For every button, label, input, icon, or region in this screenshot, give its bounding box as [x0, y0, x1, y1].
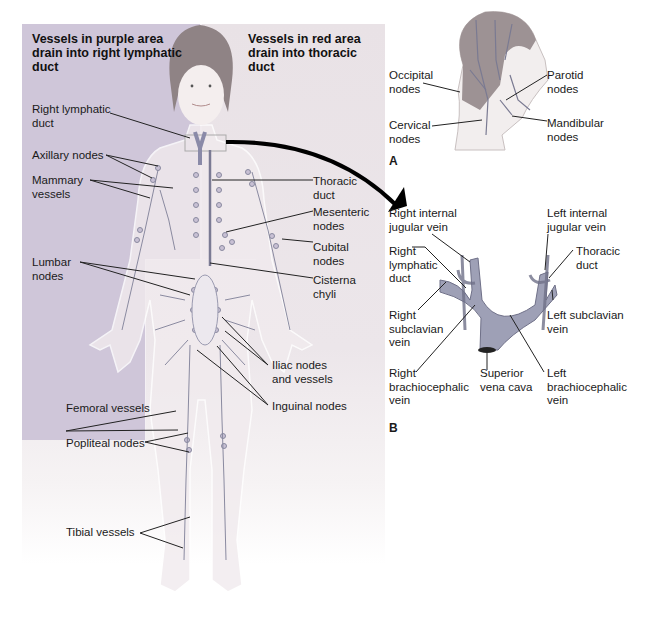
- label-iliac-nodes: Iliac nodes and vessels: [272, 359, 333, 386]
- header-purple-area: Vessels in purple area drain into right …: [32, 32, 182, 74]
- label-left-internal-jugular-vein: Left internal jugular vein: [547, 207, 607, 234]
- label-popliteal-nodes: Popliteal nodes: [66, 437, 145, 451]
- label-tibial-vessels: Tibial vessels: [66, 526, 135, 540]
- label-thoracic-duct-b: Thoracic duct: [576, 245, 620, 272]
- header-red-area: Vessels in red area drain into thoracic …: [248, 32, 361, 74]
- label-lumbar-nodes: Lumbar nodes: [32, 256, 71, 283]
- label-axillary-nodes: Axillary nodes: [32, 149, 104, 163]
- label-mesenteric-nodes: Mesenteric nodes: [313, 206, 369, 233]
- label-right-lymphatic-duct: Right lymphatic duct: [32, 103, 112, 130]
- svc-opening: [478, 347, 496, 353]
- label-right-lymphatic-duct-b: Right lymphatic duct: [389, 245, 438, 286]
- panel-b-letter: B: [389, 421, 398, 435]
- label-cervical-nodes: Cervical nodes: [389, 119, 431, 146]
- label-superior-vena-cava: Superior vena cava: [480, 367, 532, 394]
- label-right-internal-jugular-vein: Right internal jugular vein: [389, 207, 457, 234]
- label-right-brachiocephalic-vein: Right brachiocephalic vein: [389, 367, 469, 408]
- label-inguinal-nodes: Inguinal nodes: [272, 400, 347, 414]
- label-mammary-vessels: Mammary vessels: [32, 174, 83, 201]
- label-cisterna-chyli: Cisterna chyli: [313, 274, 356, 301]
- label-mandibular-nodes: Mandibular nodes: [547, 117, 604, 144]
- label-thoracic-duct: Thoracic duct: [313, 175, 357, 202]
- panel-a-letter: A: [389, 154, 398, 168]
- label-right-subclavian-vein: Right subclavian vein: [389, 309, 443, 350]
- label-left-subclavian-vein: Left subclavian vein: [547, 309, 624, 336]
- label-cubital-nodes: Cubital nodes: [313, 241, 349, 268]
- label-left-brachiocephalic-vein: Left brachiocephalic vein: [547, 367, 627, 408]
- label-parotid-nodes: Parotid nodes: [547, 69, 583, 96]
- label-occipital-nodes: Occipital nodes: [389, 69, 433, 96]
- label-femoral-vessels: Femoral vessels: [66, 402, 150, 416]
